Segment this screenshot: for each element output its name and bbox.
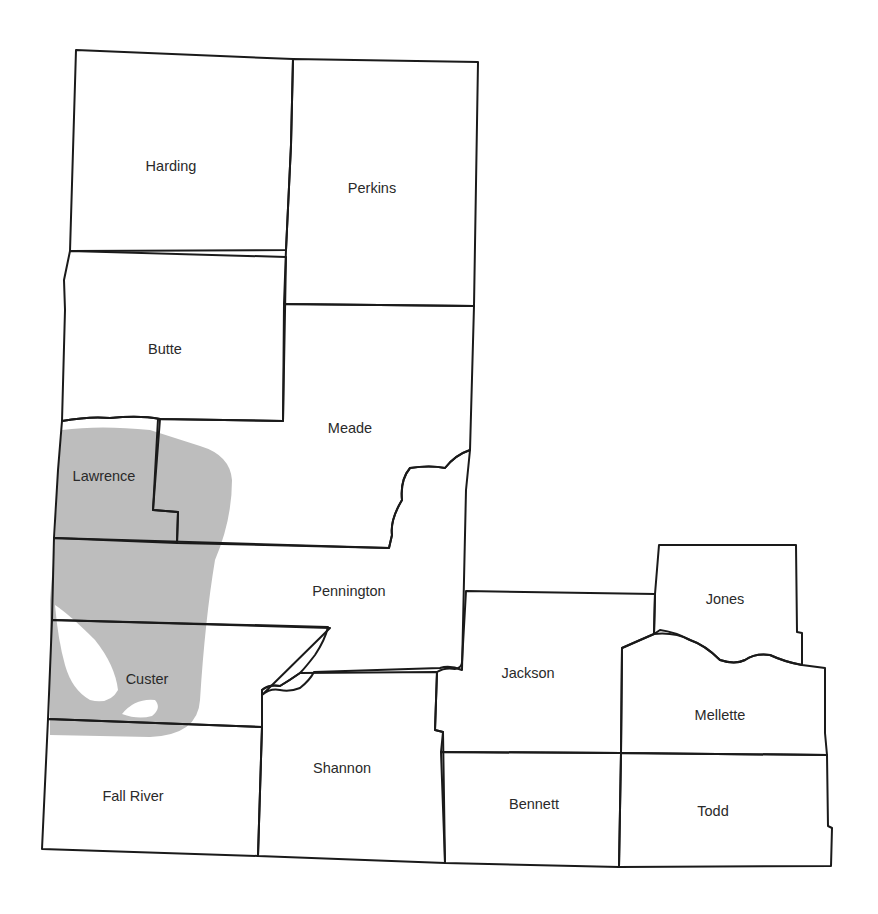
county-mellette[interactable]: [621, 634, 827, 755]
county-label-butte: Butte: [148, 341, 182, 357]
county-label-fall-river: Fall River: [102, 788, 163, 804]
county-butte[interactable]: [62, 251, 286, 421]
county-label-todd: Todd: [697, 803, 728, 819]
county-harding[interactable]: [70, 50, 293, 251]
county-label-mellette: Mellette: [695, 707, 746, 723]
county-label-jackson: Jackson: [501, 665, 554, 681]
county-label-perkins: Perkins: [348, 180, 396, 196]
county-label-shannon: Shannon: [313, 760, 371, 776]
county-label-bennett: Bennett: [509, 796, 559, 812]
county-label-pennington: Pennington: [312, 583, 385, 599]
county-label-harding: Harding: [146, 158, 197, 174]
county-label-jones: Jones: [706, 591, 745, 607]
county-label-meade: Meade: [328, 420, 372, 436]
county-label-lawrence: Lawrence: [73, 468, 136, 484]
county-map: [0, 0, 878, 914]
county-label-custer: Custer: [126, 671, 169, 687]
